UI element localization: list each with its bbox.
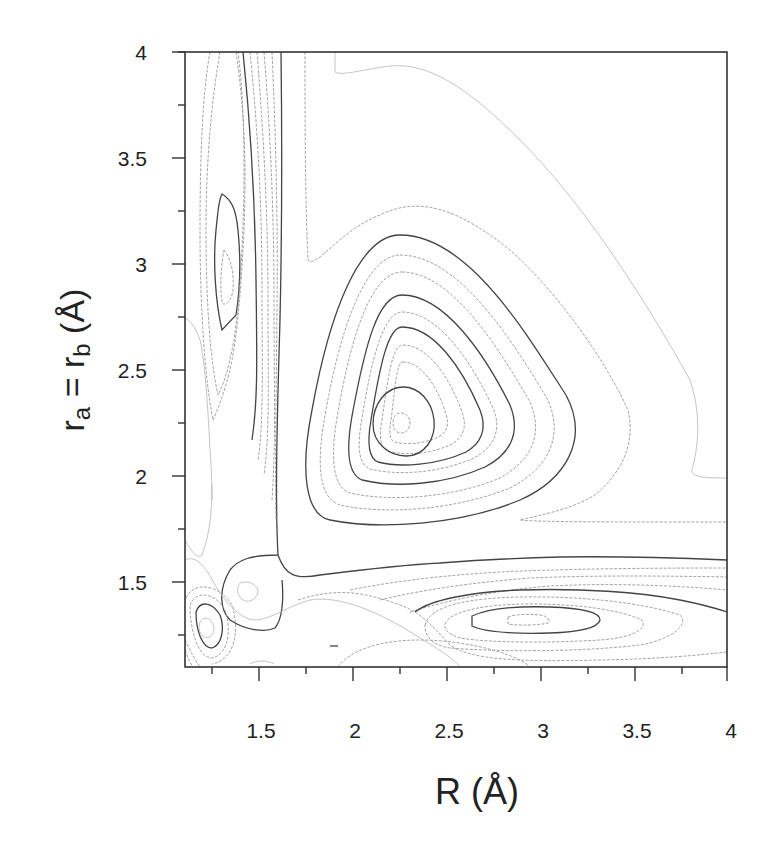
bottom-left-well-contours (185, 484, 530, 667)
central-well-contours (306, 235, 576, 525)
contour-lines (185, 52, 727, 667)
outer-contours (305, 52, 727, 522)
x-tick-label: 3 (537, 719, 549, 742)
top-left-well-contours (185, 52, 282, 570)
x-tick-label: 2.5 (434, 719, 463, 742)
x-axis-title: R (Å) (435, 771, 519, 812)
y-tick-label: 3.5 (118, 147, 147, 170)
y-tick-label: 2.5 (118, 359, 147, 382)
contour-chart: 4 3.5 3 2.5 2 1.5 1.5 2 2.5 3 3.5 4 R (Å… (0, 0, 771, 844)
x-tick-label: 1.5 (246, 719, 275, 742)
x-tick-label: 4 (725, 719, 737, 742)
y-tick-label: 2 (135, 465, 147, 488)
y-tick-label: 1.5 (118, 571, 147, 594)
plot-frame (185, 52, 727, 667)
x-axis: 1.5 2 2.5 3 3.5 4 (212, 667, 737, 742)
y-axis-title: ra = rb (Å) (53, 289, 95, 432)
x-tick-label: 2 (349, 719, 361, 742)
x-tick-label: 3.5 (622, 719, 651, 742)
y-axis: 4 3.5 3 2.5 2 1.5 (118, 41, 185, 635)
bottom-right-well-contours (278, 555, 727, 661)
y-tick-label: 3 (135, 253, 147, 276)
y-tick-label: 4 (135, 41, 147, 64)
